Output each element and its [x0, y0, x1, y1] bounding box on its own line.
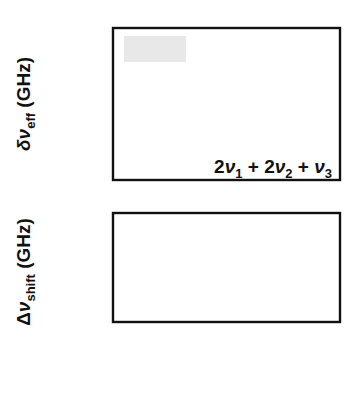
species-label-highlight — [124, 36, 186, 62]
figure-container: 2ν1 + 2ν2 + ν3 δνeff (GHz) Δνshift (GHz) — [0, 0, 359, 413]
bottom-panel-frame — [113, 213, 340, 322]
bottom-panel: Δνshift (GHz) — [13, 213, 340, 326]
two-panel-pressure-plot: 2ν1 + 2ν2 + ν3 δνeff (GHz) Δνshift (GHz) — [0, 0, 359, 413]
top-panel: 2ν1 + 2ν2 + ν3 δνeff (GHz) — [0, 0, 340, 181]
top-yaxis-title: δνeff (GHz) — [13, 57, 38, 151]
annotation-band: 2ν1 + 2ν2 + ν3 — [214, 156, 332, 181]
bottom-yaxis-title: Δνshift (GHz) — [13, 218, 38, 326]
